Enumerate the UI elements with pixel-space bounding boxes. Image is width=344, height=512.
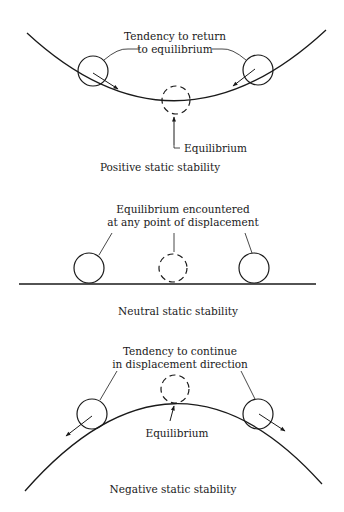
- positive-annotation-line1: Tendency to return: [124, 30, 226, 42]
- negative-annotation-line1: Tendency to continue: [123, 345, 237, 357]
- equilibrium-pointer-tail: [174, 145, 180, 148]
- positive-equilibrium-label: Equilibrium: [184, 142, 247, 154]
- hill-curve: [25, 404, 322, 491]
- neutral-stability-panel: Equilibrium encountered at any point of …: [19, 203, 316, 317]
- positive-stability-panel: Tendency to return to equilibrium Equili…: [27, 30, 326, 173]
- leader-line-left: [99, 233, 112, 255]
- negative-caption: Negative static stability: [110, 483, 237, 495]
- displaced-ball-right: [243, 55, 273, 85]
- ball-center: [159, 254, 187, 282]
- equilibrium-ball: [161, 375, 189, 403]
- neutral-annotation-line1: Equilibrium encountered: [116, 203, 250, 215]
- leader-line-left: [100, 371, 117, 400]
- ball-right: [239, 253, 269, 283]
- negative-stability-panel: Tendency to continue in displacement dir…: [25, 345, 322, 495]
- negative-annotation-line2: in displacement direction: [112, 358, 248, 370]
- leader-line-right: [212, 49, 246, 60]
- static-stability-diagram: Tendency to return to equilibrium Equili…: [0, 0, 344, 512]
- ball-left: [74, 253, 104, 283]
- neutral-annotation-line2: at any point of displacement: [107, 216, 259, 228]
- negative-equilibrium-label: Equilibrium: [145, 427, 208, 439]
- leader-line-right: [241, 371, 255, 399]
- positive-annotation-line2: to equilibrium: [137, 43, 213, 55]
- divergent-arrow-left: [66, 416, 92, 436]
- positive-caption: Positive static stability: [100, 161, 220, 173]
- displaced-ball-right: [243, 399, 273, 429]
- equilibrium-pointer: [170, 406, 174, 421]
- leader-line-right: [245, 233, 252, 253]
- neutral-caption: Neutral static stability: [118, 305, 238, 317]
- displaced-ball-left: [78, 56, 108, 86]
- leader-line-left: [104, 49, 140, 60]
